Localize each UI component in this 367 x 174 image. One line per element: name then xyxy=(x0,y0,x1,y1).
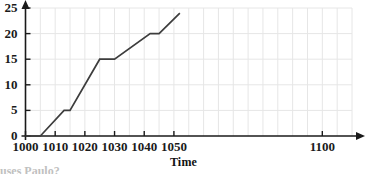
vertical-gridlines xyxy=(40,8,352,136)
y-tick-label: 15 xyxy=(0,51,18,67)
x-tick-label: 1050 xyxy=(147,139,201,155)
x-tick-label: 1100 xyxy=(295,139,349,155)
y-tick-label: 25 xyxy=(0,0,18,16)
y-tick-label: 10 xyxy=(0,77,18,93)
x-axis-arrowhead xyxy=(356,132,365,140)
y-tick-label: 20 xyxy=(0,26,18,42)
y-tick-label: 5 xyxy=(0,102,18,118)
series-line-distance xyxy=(26,13,180,136)
chart-figure: 0510152025 1000101010201030104010501100 … xyxy=(0,0,367,174)
data-series-layer xyxy=(26,13,180,136)
chart-axes xyxy=(22,0,366,140)
clipped-caption-text: uses Paulo? xyxy=(0,164,78,174)
